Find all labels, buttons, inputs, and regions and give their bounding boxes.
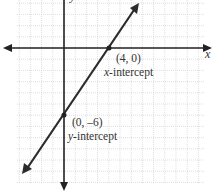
x-intercept-label: x-intercept: [103, 66, 154, 79]
y-axis-label: y: [69, 0, 75, 3]
y-intercept-coords: (0, –6): [72, 116, 103, 129]
x-intercept-point: [107, 46, 112, 51]
y-intercept-label: y-intercept: [67, 130, 118, 143]
grid: [17, 0, 204, 184]
x-axis-label: x: [204, 47, 211, 61]
x-intercept-text: -intercept: [109, 66, 154, 79]
y-intercept-point: [62, 113, 67, 118]
arrow-left-icon: [3, 44, 12, 52]
y-intercept-text: -intercept: [73, 130, 118, 143]
graph: x y (4, 0) x-intercept (0, –6) y-interce…: [0, 0, 219, 191]
y-axis: [60, 0, 68, 191]
x-intercept-coords: (4, 0): [116, 52, 141, 65]
arrow-down-icon: [60, 182, 68, 191]
plotted-line: [22, 3, 139, 174]
